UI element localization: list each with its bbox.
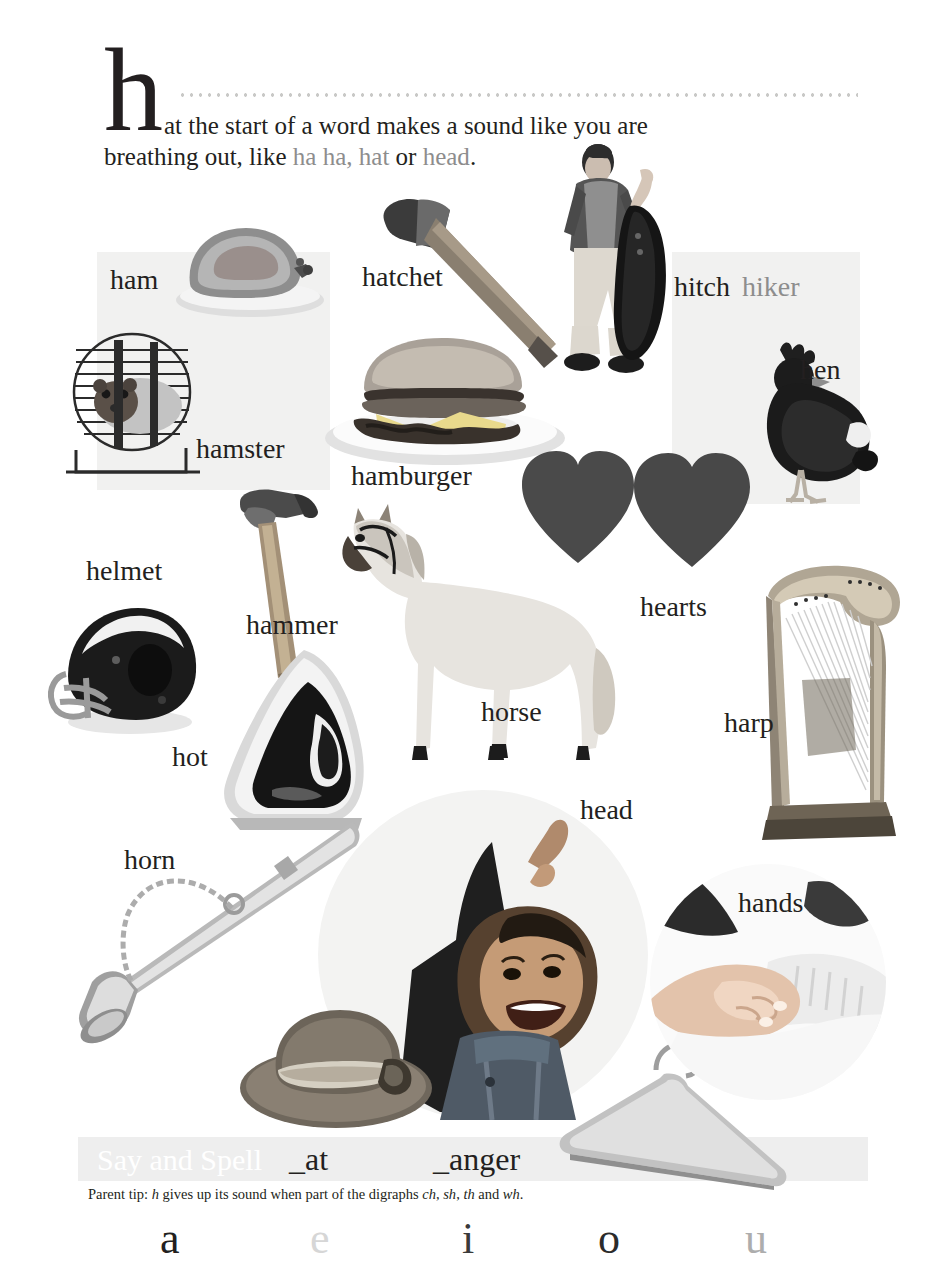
parent-tip-letter-h: h <box>152 1186 159 1202</box>
say-and-spell-heading: Say and Spell <box>97 1143 262 1177</box>
label-hamburger: hamburger <box>351 461 472 491</box>
parent-tip-digraph-wh: wh <box>503 1186 520 1202</box>
intro-text-c: or <box>389 143 422 170</box>
intro-line-1: at the start of a word makes a sound lik… <box>104 110 784 141</box>
helmet-image <box>42 600 207 740</box>
label-hen: hen <box>800 355 840 385</box>
vowel-i[interactable]: i <box>462 1215 474 1263</box>
vowel-e[interactable]: e <box>310 1215 330 1263</box>
intro-highlight-hat: hat <box>359 143 390 170</box>
intro-text-a: breathing out, like <box>104 143 293 170</box>
label-hammer: hammer <box>246 610 338 640</box>
parent-tip-prefix: Parent tip: <box>88 1186 152 1202</box>
hitchhiker-image <box>538 140 688 410</box>
label-ham: ham <box>110 265 158 295</box>
label-hiker: hiker <box>742 272 800 302</box>
blank-word-anger: _anger <box>433 1141 520 1178</box>
label-hitch: hitch <box>674 272 730 302</box>
dotted-rule <box>178 92 858 98</box>
blank-word-at: _at <box>289 1141 328 1178</box>
label-hearts: hearts <box>640 592 707 622</box>
label-helmet: helmet <box>86 556 162 586</box>
label-head: head <box>580 795 633 825</box>
harp-image <box>750 560 915 845</box>
parent-tip-digraph-ch: ch <box>422 1186 436 1202</box>
parent-tip-end: . <box>520 1186 524 1202</box>
parent-tip-sep-3: and <box>475 1186 503 1202</box>
intro-highlight-haha: ha ha, <box>293 143 353 170</box>
vowel-a[interactable]: a <box>160 1215 180 1263</box>
label-hamster: hamster <box>196 434 285 464</box>
label-hot: hot <box>172 742 208 772</box>
hat-image <box>236 1000 436 1130</box>
label-hatchet: hatchet <box>362 262 443 292</box>
vowel-u[interactable]: u <box>745 1215 767 1263</box>
intro-text-d: . <box>470 143 476 170</box>
ham-image <box>168 212 328 322</box>
vowel-o[interactable]: o <box>598 1215 620 1263</box>
page-header: h at the start of a word makes a sound l… <box>0 0 925 190</box>
intro-highlight-head: head <box>423 143 470 170</box>
parent-tip-digraph-th: th <box>463 1186 474 1202</box>
parent-tip-digraph-sh: sh <box>443 1186 456 1202</box>
label-horse: horse <box>481 697 542 727</box>
label-hands: hands <box>738 888 803 918</box>
label-harp: harp <box>724 708 774 738</box>
parent-tip: Parent tip: h gives up its sound when pa… <box>88 1186 523 1203</box>
horse-image <box>330 498 650 788</box>
parent-tip-mid: gives up its sound when part of the digr… <box>159 1186 422 1202</box>
label-horn: horn <box>124 845 175 875</box>
phonics-page: h at the start of a word makes a sound l… <box>0 0 925 1267</box>
vowel-row: a e i o u <box>0 1215 925 1267</box>
